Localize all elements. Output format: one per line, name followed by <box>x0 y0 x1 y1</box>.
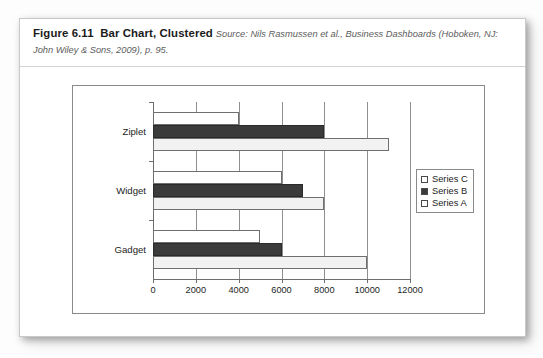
bar-row <box>153 243 410 256</box>
value-axis-tick <box>239 279 240 283</box>
legend-item[interactable]: Series A <box>421 197 468 209</box>
value-axis-tick <box>196 279 197 283</box>
bar-row <box>153 230 410 243</box>
category-axis-tick <box>149 161 153 162</box>
value-axis-tick <box>367 279 368 283</box>
value-axis-tick-label: 0 <box>150 285 155 295</box>
bar-row <box>153 184 410 197</box>
bar-group: Ziplet <box>153 102 410 161</box>
bar[interactable] <box>153 184 303 197</box>
value-axis-tick-label: 2000 <box>186 285 206 295</box>
value-axis-tick <box>282 279 283 283</box>
figure-number: Figure 6.11 <box>33 27 94 39</box>
figure-source-part-1: Source: Nils Rasmussen et al., Business … <box>216 29 498 39</box>
bar-row <box>153 171 410 184</box>
legend-label: Series B <box>432 186 467 196</box>
category-axis-tick <box>149 220 153 221</box>
figure-source-part-2: John Wiley & Sons, 2009), p. 95. <box>33 43 513 58</box>
chart-legend: Series CSeries BSeries A <box>416 169 474 213</box>
value-axis-tick <box>410 279 411 283</box>
figure-caption: Figure 6.11 Bar Chart, Clustered Source:… <box>20 19 525 67</box>
caption-line-1: Figure 6.11 Bar Chart, Clustered Source:… <box>33 26 513 43</box>
bar[interactable] <box>153 256 367 269</box>
bar[interactable] <box>153 230 260 243</box>
legend-label: Series A <box>432 198 467 208</box>
value-axis-tick <box>153 279 154 283</box>
bar-group: Widget <box>153 161 410 220</box>
legend-item[interactable]: Series C <box>421 173 468 185</box>
figure-title: Bar Chart, Clustered <box>100 27 213 39</box>
bar-row <box>153 197 410 210</box>
bar-group: Gadget <box>153 220 410 279</box>
plot-area: ZipletWidgetGadget <box>153 102 410 279</box>
bar-row <box>153 138 410 151</box>
scanned-page: Figure 6.11 Bar Chart, Clustered Source:… <box>0 0 543 358</box>
category-label: Widget <box>116 185 146 196</box>
gridline <box>410 102 411 279</box>
category-label: Gadget <box>115 244 146 255</box>
value-axis-tick-label: 6000 <box>271 285 291 295</box>
legend-swatch-icon <box>421 200 428 207</box>
legend-swatch-icon <box>421 188 428 195</box>
bar[interactable] <box>153 138 389 151</box>
legend-label: Series C <box>432 174 468 184</box>
figure-card: Figure 6.11 Bar Chart, Clustered Source:… <box>19 18 526 337</box>
value-axis-tick-label: 8000 <box>314 285 334 295</box>
bar-row <box>153 112 410 125</box>
bar[interactable] <box>153 243 282 256</box>
category-label: Ziplet <box>123 126 146 137</box>
value-axis-tick <box>324 279 325 283</box>
bar[interactable] <box>153 197 324 210</box>
legend-item[interactable]: Series B <box>421 185 468 197</box>
value-axis-tick-label: 10000 <box>354 285 380 295</box>
category-axis-tick <box>149 102 153 103</box>
bar-row <box>153 125 410 138</box>
chart-container: ZipletWidgetGadget Series CSeries BSerie… <box>72 85 485 314</box>
bar-row <box>153 256 410 269</box>
bar[interactable] <box>153 171 282 184</box>
value-axis-tick-label: 4000 <box>228 285 248 295</box>
legend-swatch-icon <box>421 176 428 183</box>
bar[interactable] <box>153 112 239 125</box>
bar[interactable] <box>153 125 324 138</box>
value-axis-tick-label: 12000 <box>397 285 423 295</box>
